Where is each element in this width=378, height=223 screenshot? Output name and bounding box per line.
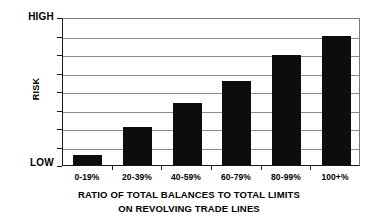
x-axis-category-labels: 0-19%20-39%40-59%60-79%80-99%100+% [62,172,360,186]
bar-100+% [322,36,351,165]
x-axis-title: RATIO OF TOTAL BALANCES TO TOTAL LIMITS [0,188,378,201]
x-axis-label: 80-99% [261,172,311,182]
bar-40-59% [173,103,202,165]
y-axis-title: RISK [31,49,41,129]
x-axis-tick [161,166,162,170]
x-axis-tick-marks [62,166,360,171]
x-axis-label: 60-79% [211,172,261,182]
x-axis-label: 0-19% [62,172,112,182]
bars-layer [63,19,359,165]
x-axis-title-line-2: ON REVOLVING TRADE LINES [0,202,378,215]
bar-80-99% [272,55,301,165]
bar-0-19% [73,155,102,165]
bar-60-79% [222,81,251,165]
x-axis-tick [112,166,113,170]
x-axis-tick [261,166,262,170]
x-axis-label: 40-59% [161,172,211,182]
x-axis-tick [310,166,311,170]
x-axis-label: 100+% [310,172,360,182]
bar-20-39% [123,127,152,165]
risk-vs-utilization-bar-chart: HIGH LOW RISK 0-19%20-39%40-59%60-79%80-… [0,0,378,223]
x-axis-label: 20-39% [112,172,162,182]
y-axis-low-label: LOW [14,157,54,169]
x-axis-tick [211,166,212,170]
y-axis-high-label: HIGH [14,11,54,23]
plot-area [62,18,360,166]
